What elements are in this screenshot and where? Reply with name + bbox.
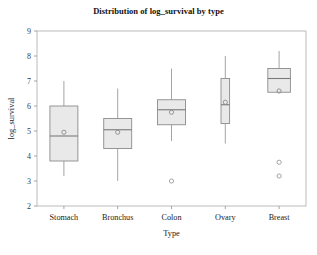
y-axis-title: log_survival (7, 97, 16, 140)
x-axis-title: Type (163, 229, 180, 238)
y-tick-label: 4 (27, 152, 31, 161)
x-tick-label-bronchus: Bronchus (102, 213, 133, 222)
y-tick-label: 8 (27, 52, 31, 61)
y-tick-label: 3 (27, 177, 31, 186)
box-body (104, 119, 132, 149)
x-axis: StomachBronchusColonOvaryBreast (50, 206, 291, 222)
y-tick-label: 7 (27, 77, 31, 86)
y-tick-label: 9 (27, 27, 31, 36)
x-tick-label-ovary: Ovary (215, 213, 236, 222)
chart-figure: Distribution of log_survival by type 234… (0, 0, 317, 255)
x-tick-label-breast: Breast (269, 213, 291, 222)
box-body (221, 79, 230, 124)
x-tick-label-stomach: Stomach (50, 213, 79, 222)
y-axis: 23456789 (27, 27, 37, 211)
y-tick-label: 2 (27, 202, 31, 211)
boxplot-canvas: 23456789 StomachBronchusColonOvaryBreast… (0, 0, 317, 255)
x-tick-label-colon: Colon (161, 213, 181, 222)
box-body (158, 100, 186, 125)
box-body (50, 106, 78, 161)
y-tick-label: 6 (27, 102, 31, 111)
y-tick-label: 5 (27, 127, 31, 136)
